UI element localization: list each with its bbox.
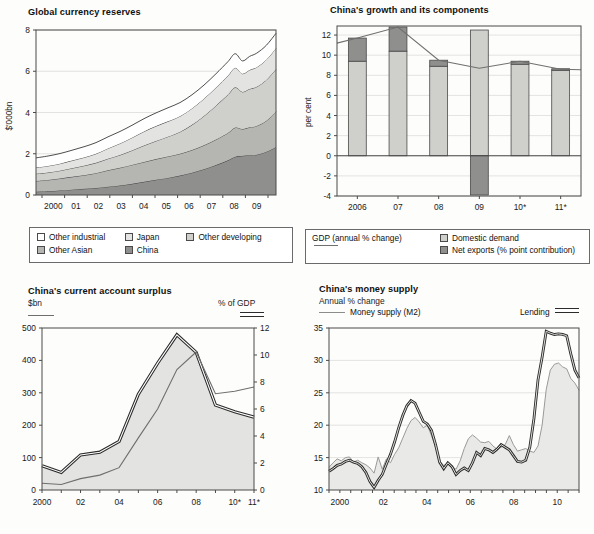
svg-text:06: 06 [153, 497, 163, 507]
svg-text:07: 07 [207, 201, 217, 211]
legend-item-other-asian[interactable]: Other Asian [37, 245, 125, 255]
legend-line-icon [314, 245, 338, 246]
svg-text:12: 12 [322, 30, 332, 40]
svg-text:08: 08 [434, 202, 444, 212]
legend-label: Other industrial [49, 232, 105, 242]
svg-text:0: 0 [260, 485, 265, 495]
legend-thick-line-icon [240, 312, 264, 317]
svg-text:02: 02 [76, 497, 86, 507]
legend-thin-line-icon [28, 315, 54, 316]
svg-text:2006: 2006 [348, 202, 367, 212]
svg-text:per cent: per cent [304, 97, 313, 127]
svg-text:8: 8 [25, 25, 30, 35]
svg-text:20: 20 [314, 420, 324, 430]
svg-text:2: 2 [25, 149, 30, 159]
svg-text:09: 09 [252, 201, 262, 211]
svg-text:10: 10 [314, 485, 324, 495]
svg-text:10: 10 [553, 497, 563, 507]
legend-label-m2: Money supply (M2) [350, 307, 421, 317]
chart3-plot: 010020030040050002468101220000204060810*… [0, 320, 297, 532]
chart3-right-axis-label: % of GDP [218, 298, 255, 308]
svg-text:6: 6 [326, 90, 331, 100]
legend-thin-line-icon [319, 312, 345, 313]
chart2-plot: -4-2024681012per cent200607080910*11* [297, 16, 594, 241]
svg-text:11*: 11* [248, 497, 261, 507]
svg-text:11*: 11* [555, 202, 568, 212]
legend-item-domestic-demand[interactable]: Domestic demand [440, 233, 575, 243]
legend-item-net-exports[interactable]: Net exports (% point contribution) [440, 245, 575, 255]
svg-text:02: 02 [94, 201, 104, 211]
svg-text:0: 0 [31, 485, 36, 495]
legend-label-lending: Lending [520, 307, 550, 317]
legend-swatch-icon [440, 246, 448, 254]
chart1-plot: 02468$'000bn2000010203040506070809 [0, 18, 297, 243]
svg-text:400: 400 [22, 355, 36, 365]
panel-chinas-growth: China's growth and its components -4-202… [297, 0, 594, 267]
svg-text:8: 8 [326, 70, 331, 80]
svg-text:2000: 2000 [44, 201, 63, 211]
svg-text:500: 500 [22, 323, 36, 333]
chart4-plot: 10152025303520000204060810 [297, 320, 594, 532]
svg-text:35: 35 [314, 323, 324, 333]
chart3-left-axis-label: $bn [28, 298, 42, 308]
svg-text:15: 15 [314, 453, 324, 463]
legend-item-china[interactable]: China [125, 245, 187, 255]
svg-text:10: 10 [260, 350, 270, 360]
svg-text:03: 03 [116, 201, 126, 211]
chart4-subtitle: Annual % change [319, 296, 385, 306]
legend-label: Other Asian [49, 245, 92, 255]
svg-text:-4: -4 [324, 191, 332, 201]
legend-label: Domestic demand [452, 233, 519, 243]
panel-global-currency-reserves: Global currency reserves 02468$'000bn200… [0, 0, 297, 267]
svg-text:2: 2 [260, 458, 265, 468]
svg-text:09: 09 [475, 202, 485, 212]
svg-text:6: 6 [25, 66, 30, 76]
legend-label: Other developing [198, 232, 261, 242]
legend-item-japan[interactable]: Japan [125, 232, 187, 242]
panel-money-supply: China's money supply Annual % change Mon… [297, 267, 594, 534]
legend-swatch-icon [37, 233, 45, 241]
legend-label: Net exports (% point contribution) [452, 245, 575, 255]
legend-swatch-icon [125, 246, 133, 254]
svg-text:08: 08 [509, 497, 519, 507]
legend-item-other-industrial[interactable]: Other industrial [37, 232, 125, 242]
svg-text:100: 100 [22, 453, 36, 463]
svg-text:06: 06 [184, 201, 194, 211]
svg-text:300: 300 [22, 388, 36, 398]
svg-text:05: 05 [162, 201, 172, 211]
legend-label: Japan [137, 232, 160, 242]
svg-text:10: 10 [322, 50, 332, 60]
svg-text:0: 0 [25, 190, 30, 200]
legend-swatch-icon [440, 234, 448, 242]
svg-text:2: 2 [326, 131, 331, 141]
chart2-legend: GDP (annual % change) Domestic demand Ne… [305, 229, 590, 264]
svg-text:08: 08 [229, 201, 239, 211]
legend-thick-line-icon [555, 308, 579, 313]
legend-label-gdp: GDP (annual % change) [312, 233, 440, 243]
svg-text:10*: 10* [514, 202, 527, 212]
chart1-legend: Other industrial Other Asian Japan China [29, 227, 293, 263]
svg-text:4: 4 [260, 431, 265, 441]
legend-swatch-icon [186, 233, 194, 241]
chart1-title: Global currency reserves [28, 7, 141, 17]
svg-text:10*: 10* [228, 497, 241, 507]
svg-text:04: 04 [422, 497, 432, 507]
svg-text:0: 0 [326, 151, 331, 161]
svg-text:01: 01 [71, 201, 81, 211]
chart4-title: China's money supply [319, 284, 418, 294]
svg-text:25: 25 [314, 388, 324, 398]
svg-text:04: 04 [139, 201, 149, 211]
svg-text:07: 07 [393, 202, 403, 212]
svg-text:08: 08 [192, 497, 202, 507]
svg-text:200: 200 [22, 420, 36, 430]
svg-text:6: 6 [260, 404, 265, 414]
legend-swatch-icon [125, 233, 133, 241]
legend-item-other-developing[interactable]: Other developing [186, 232, 292, 242]
svg-text:12: 12 [260, 323, 270, 333]
chart2-title: China's growth and its components [330, 5, 489, 15]
legend-label: China [137, 245, 159, 255]
svg-text:4: 4 [326, 111, 331, 121]
chart3-title: China's current account surplus [28, 286, 172, 296]
svg-text:2000: 2000 [331, 497, 350, 507]
svg-text:04: 04 [114, 497, 124, 507]
